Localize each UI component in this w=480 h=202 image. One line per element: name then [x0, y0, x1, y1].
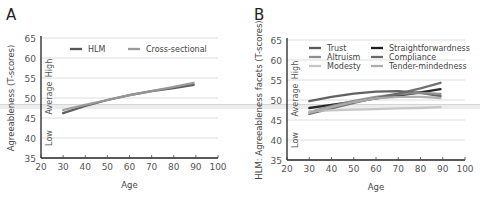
- chart-panel-b: 354045505560652030405060708090100AgeHLM:…: [254, 20, 474, 192]
- x-tick-label: 40: [326, 164, 338, 174]
- band-label-high: High: [291, 61, 300, 79]
- band-label-low: Low: [45, 130, 54, 146]
- chart-canvas: 354045505560652030405060708090100AgeAgre…: [0, 0, 480, 202]
- legend-label: Altruism: [327, 53, 361, 62]
- x-tick-label: 20: [281, 164, 293, 174]
- legend-label: Cross-sectional: [146, 45, 207, 54]
- x-tick-label: 60: [124, 162, 136, 172]
- x-tick-label: 90: [190, 162, 202, 172]
- chart-panel-a: 354045505560652030405060708090100AgeAgre…: [6, 34, 227, 191]
- legend-label: HLM: [88, 45, 105, 54]
- x-tick-label: 60: [370, 164, 382, 174]
- y-tick-label: 40: [271, 136, 283, 146]
- band-label-low: Low: [291, 132, 300, 148]
- band-label-average: Average: [291, 84, 300, 117]
- legend-label: Compliance: [389, 53, 436, 62]
- x-tick-label: 80: [168, 162, 180, 172]
- band-label-average: Average: [45, 82, 54, 115]
- y-tick-label: 55: [25, 74, 36, 84]
- x-tick-label: 30: [57, 162, 69, 172]
- x-tick-label: 100: [456, 164, 473, 174]
- y-tick-label: 45: [271, 116, 282, 126]
- x-tick-label: 30: [304, 164, 316, 174]
- x-tick-label: 20: [35, 162, 47, 172]
- y-tick-label: 55: [271, 76, 282, 86]
- legend: TrustStraightforwardnessAltruismComplian…: [309, 44, 470, 71]
- legend-label: Trust: [326, 44, 346, 53]
- x-tick-label: 90: [437, 164, 449, 174]
- x-tick-label: 70: [146, 162, 158, 172]
- y-tick-label: 65: [271, 36, 282, 46]
- series-line-hlm: [63, 85, 194, 113]
- y-tick-label: 45: [25, 114, 36, 124]
- legend: HLMCross-sectional: [70, 45, 207, 54]
- y-axis-label: HLM: Agreeableness facets (T-scores): [254, 20, 264, 179]
- y-tick-label: 50: [25, 94, 37, 104]
- x-axis-label: Age: [368, 182, 384, 192]
- x-axis-label: Age: [121, 180, 137, 190]
- legend-label: Straightforwardness: [389, 44, 470, 53]
- x-tick-label: 50: [348, 164, 360, 174]
- band-label-high: High: [45, 59, 54, 77]
- y-tick-label: 60: [25, 54, 37, 64]
- y-tick-label: 50: [271, 96, 283, 106]
- legend-label: Modesty: [327, 62, 361, 71]
- x-tick-label: 100: [209, 162, 226, 172]
- x-tick-label: 70: [393, 164, 405, 174]
- y-tick-label: 65: [25, 34, 36, 44]
- x-tick-label: 80: [415, 164, 427, 174]
- legend-label: Tender-mindedness: [388, 62, 467, 71]
- y-tick-label: 60: [271, 56, 283, 66]
- series-line-cross-sectional: [63, 83, 194, 110]
- y-tick-label: 40: [25, 134, 37, 144]
- x-tick-label: 40: [80, 162, 92, 172]
- x-tick-label: 50: [102, 162, 114, 172]
- y-axis-label: Agreeableness (T-scores): [6, 45, 16, 152]
